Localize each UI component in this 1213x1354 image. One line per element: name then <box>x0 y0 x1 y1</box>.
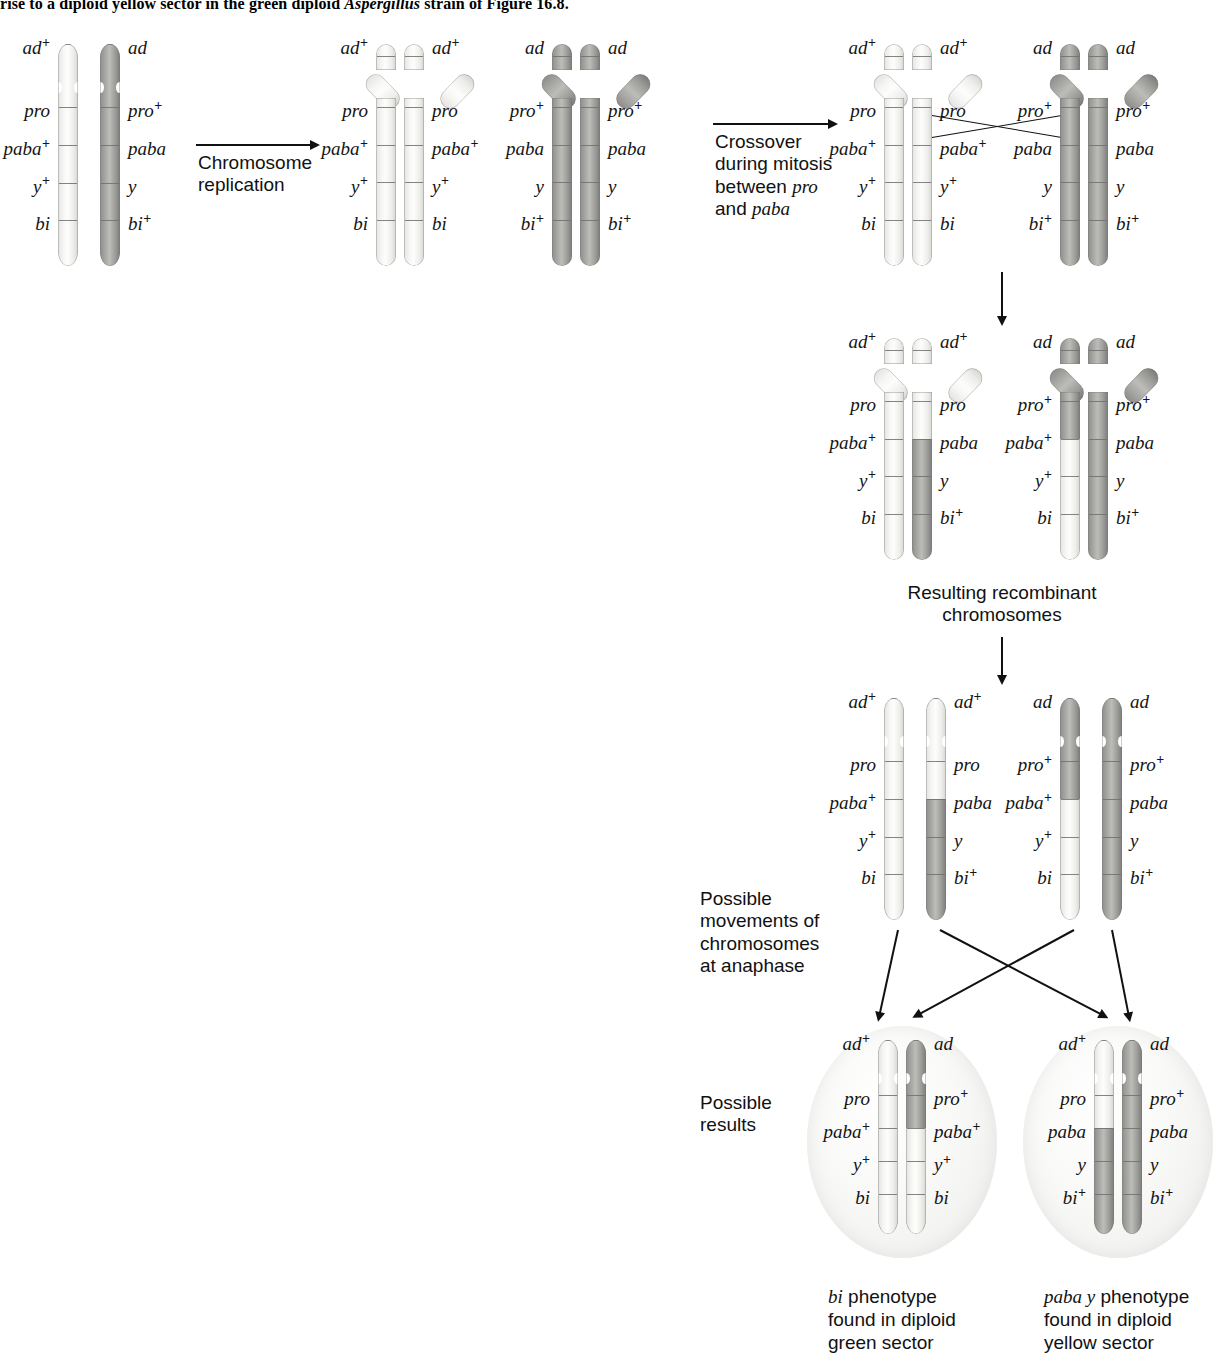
chromatid-upper-arm-left <box>376 44 396 70</box>
chromatid-outline <box>376 44 396 70</box>
stage1-chromosome-light <box>58 44 78 266</box>
chromatid-upper-arm-right <box>912 338 932 364</box>
gene-band <box>59 44 77 45</box>
stage3-c0-right-label-4: bi <box>940 214 955 233</box>
stage3-c1-left-label-0: ad <box>1033 38 1052 57</box>
chromatid-outline <box>1060 44 1080 70</box>
chromatid-outline <box>1088 392 1108 560</box>
chromatid-lower-arm-left <box>1060 392 1080 560</box>
gene-band <box>1061 874 1079 875</box>
stage3-c1-right-label-0: ad <box>1116 38 1135 57</box>
stage5-c1-label-4: bi+ <box>954 868 977 887</box>
caption-part-2: strain of Figure 16.8. <box>420 0 569 12</box>
label-possible-movements: Possiblemovements ofchromosomesat anapha… <box>700 888 819 978</box>
gene-band <box>927 837 945 838</box>
centromere-pinch-right <box>900 736 904 747</box>
stage1-right-label-2: paba <box>128 139 166 158</box>
arrow-anaphase-2 <box>940 930 1108 1018</box>
chromatid-upper-arm-left <box>1060 44 1080 70</box>
chromatid-segment <box>100 44 120 266</box>
stage5-c3-label-2: paba <box>1130 793 1168 812</box>
result-cell-yellow-caption: paba y phenotypefound in diploidyellow s… <box>1044 1286 1213 1354</box>
stage3-c1-right-label-2: paba <box>1116 139 1154 158</box>
stage4-c1-left-label-3: y+ <box>1035 470 1052 489</box>
chromatid-outline <box>376 98 396 266</box>
chromatid-outline <box>912 98 932 266</box>
stage3-c0-right-label-2: paba+ <box>940 139 986 158</box>
chromatid-outline <box>1088 98 1108 266</box>
gene-band <box>927 761 945 762</box>
result-cell-yellow-left-label-0: ad+ <box>1059 1034 1086 1053</box>
chromatid-outline <box>552 98 572 266</box>
stage1-left-label-4: bi <box>35 214 50 233</box>
gene-band <box>1061 761 1079 762</box>
arrow-head <box>310 140 320 150</box>
arrow-shaft <box>920 929 1075 1014</box>
gene-band <box>879 1128 897 1129</box>
centromere-pinch-right <box>1118 736 1122 747</box>
stage4-c1-left-label-4: bi <box>1037 508 1052 527</box>
arrow-head <box>1123 1011 1135 1023</box>
stage5-chromosome-0 <box>884 698 904 920</box>
chromatid-lower-arm-right <box>404 98 424 266</box>
caption-part-1: rise to a diploid yellow sector in the g… <box>0 0 344 12</box>
stage4-c0-left-label-0: ad+ <box>849 332 876 351</box>
label-chromosome-replication: Chromosomereplication <box>198 152 312 197</box>
chromatid-upper-arm-left <box>1060 338 1080 364</box>
gene-band <box>59 220 77 221</box>
stage2-c1-left-label-2: paba <box>506 139 544 158</box>
chromatid-segment <box>1094 1128 1114 1234</box>
stage5-chromosome-3 <box>1102 698 1122 920</box>
label-crossover-during-mitosis: Crossoverduring mitosisbetween proand pa… <box>715 131 832 221</box>
cell-cytoplasm <box>807 1026 997 1258</box>
caption-italic-organism: Aspergillus <box>344 0 420 12</box>
gene-band <box>907 1128 925 1129</box>
stage4-c1-left-label-1: pro+ <box>1018 395 1052 414</box>
gene-band <box>1061 837 1079 838</box>
arrow-head <box>828 119 838 129</box>
result-cell-yellow-right-label-1: pro+ <box>1150 1089 1184 1108</box>
gene-band <box>1061 799 1079 800</box>
gene-band <box>1095 1194 1113 1195</box>
chromatid-outline <box>1060 338 1080 364</box>
chromatid-segment <box>1060 698 1080 799</box>
stage4-chromosome-dark-pair <box>1060 338 1108 560</box>
gene-band <box>1103 761 1121 762</box>
chromatid-lower-arm-left <box>552 98 572 266</box>
centromere-pinch-right <box>74 82 78 93</box>
result-cell-yellow-right-label-3: y <box>1150 1155 1158 1174</box>
result-cell-green-chromosome-0 <box>878 1040 898 1234</box>
stage1-right-label-1: pro+ <box>128 101 162 120</box>
chromatid-upper-arm-left <box>884 338 904 364</box>
result-cell-green-right-label-1: pro+ <box>934 1089 968 1108</box>
stage2-chromosome-dark <box>552 44 600 266</box>
stage5-c0-label-3: y+ <box>859 830 876 849</box>
stage2-c1-right-label-4: bi+ <box>608 214 631 233</box>
stage4-c0-left-label-2: paba+ <box>830 433 876 452</box>
result-cell-green-left-label-3: y+ <box>853 1155 870 1174</box>
gene-band <box>927 799 945 800</box>
chromatid-outline <box>580 98 600 266</box>
result-cell-green-right-label-0: ad <box>934 1034 953 1053</box>
result-cell-green <box>807 1026 997 1258</box>
stage2-c0-left-label-4: bi <box>353 214 368 233</box>
gene-band <box>1095 1161 1113 1162</box>
chromatid-outline <box>884 98 904 266</box>
stage4-c0-right-label-2: paba <box>940 433 978 452</box>
stage1-right-label-0: ad <box>128 38 147 57</box>
arrow-shaft <box>1001 637 1003 676</box>
chromatid-upper-arm-left <box>884 44 904 70</box>
stage3-c1-left-label-2: paba <box>1014 139 1052 158</box>
result-cell-green-right-label-2: paba+ <box>934 1122 980 1141</box>
arrow-anaphase-1 <box>878 930 898 1022</box>
chromatid-upper-arm-right <box>580 44 600 70</box>
gene-band <box>907 1095 925 1096</box>
stage3-c0-right-label-0: ad+ <box>940 38 967 57</box>
arrow-shaft <box>1111 930 1129 1013</box>
stage2-c0-left-label-2: paba+ <box>322 139 368 158</box>
stage5-c3-label-0: ad <box>1130 692 1149 711</box>
stage2-c0-left-label-1: pro <box>342 101 368 120</box>
chromatid-outline <box>552 44 572 70</box>
chromatid-upper-arm-right <box>1088 44 1108 70</box>
